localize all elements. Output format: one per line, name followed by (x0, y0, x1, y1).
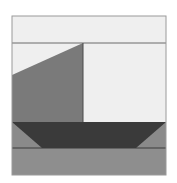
sailboat-figure (0, 0, 177, 183)
water-band (12, 148, 166, 175)
